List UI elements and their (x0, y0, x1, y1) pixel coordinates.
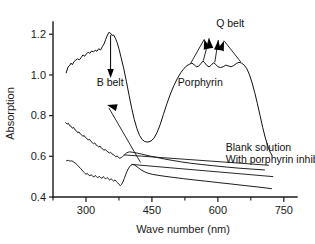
y-axis-title: Absorption (4, 87, 16, 140)
curve-porphyrin (66, 32, 272, 155)
annotation-q-belt: Q belt (216, 17, 244, 29)
x-tick-label: 600 (209, 204, 227, 216)
chart-canvas: 0.40.60.81.01.2300450600750Wave number (… (0, 0, 315, 244)
annotation-porphyrin: Porphyrin (178, 76, 223, 88)
annotation-b-belt: B belt (97, 76, 124, 88)
q-belt-arrow-stem-4 (224, 41, 241, 62)
annotation-blank-solution: Blank solution (226, 141, 292, 153)
y-tick-label: 0.6 (31, 150, 46, 162)
y-tick-label: 0.8 (31, 109, 46, 121)
x-tick-label: 750 (275, 204, 293, 216)
absorption-spectrum-figure: 0.40.60.81.01.2300450600750Wave number (… (0, 0, 315, 244)
x-tick-label: 300 (77, 204, 95, 216)
x-axis-title: Wave number (nm) (136, 223, 230, 235)
chart-axes: 0.40.60.81.01.2300450600750Wave number (… (4, 22, 297, 235)
x-tick-label: 450 (143, 204, 161, 216)
y-tick-label: 1.2 (31, 28, 46, 40)
y-tick-label: 1.0 (31, 69, 46, 81)
q-belt-arrow-stem-1 (191, 39, 205, 63)
y-tick-label: 0.4 (31, 191, 46, 203)
b-belt-leader-arrow-head (107, 104, 118, 111)
chart-curves (66, 32, 272, 188)
